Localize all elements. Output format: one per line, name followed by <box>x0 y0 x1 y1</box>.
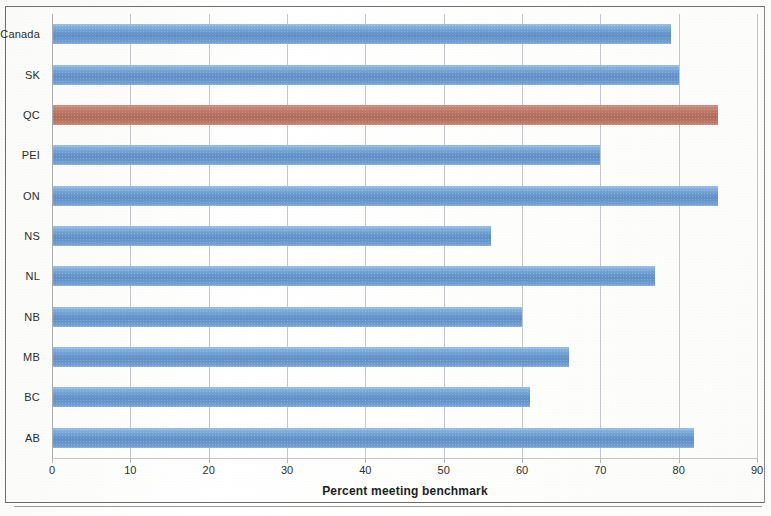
x-tick-label-20: 20 <box>203 464 215 476</box>
bar-row <box>52 54 757 94</box>
x-tick-label-90: 90 <box>751 464 763 476</box>
x-tick-60 <box>522 458 523 463</box>
bar-canada[interactable] <box>52 24 671 44</box>
category-axis-labels: CanadaSKQCPEIONNSNLNBMBBCAB <box>0 14 46 458</box>
x-tick-30 <box>287 458 288 463</box>
x-tick-50 <box>444 458 445 463</box>
bar-sk[interactable] <box>52 65 679 85</box>
x-tick-label-0: 0 <box>49 464 55 476</box>
category-label-ab: AB <box>0 431 46 445</box>
bar-row <box>52 337 757 377</box>
x-tick-label-60: 60 <box>516 464 528 476</box>
bar-row <box>52 175 757 215</box>
bar-row <box>52 14 757 54</box>
bar-mb[interactable] <box>52 347 569 367</box>
category-label-on: ON <box>0 189 46 203</box>
x-tick-0 <box>52 458 53 463</box>
category-label-bc: BC <box>0 390 46 404</box>
bar-ab[interactable] <box>52 428 694 448</box>
bar-row <box>52 256 757 296</box>
bar-row <box>52 418 757 458</box>
bar-pei[interactable] <box>52 145 600 165</box>
bar-ns[interactable] <box>52 226 491 246</box>
x-tick-80 <box>679 458 680 463</box>
bar-qc[interactable] <box>52 105 718 125</box>
category-label-pei: PEI <box>0 148 46 162</box>
x-tick-label-40: 40 <box>359 464 371 476</box>
bar-on[interactable] <box>52 186 718 206</box>
x-tick-10 <box>130 458 131 463</box>
x-tick-label-30: 30 <box>281 464 293 476</box>
category-label-nb: NB <box>0 310 46 324</box>
category-label-qc: QC <box>0 108 46 122</box>
x-tick-40 <box>365 458 366 463</box>
bar-row <box>52 297 757 337</box>
bar-bc[interactable] <box>52 387 530 407</box>
x-tick-90 <box>757 458 758 463</box>
category-label-nl: NL <box>0 269 46 283</box>
value-axis-line <box>52 458 758 459</box>
category-label-sk: SK <box>0 68 46 82</box>
x-axis-title: Percent meeting benchmark <box>52 484 758 498</box>
value-axis-tick-labels: 0102030405060708090 <box>0 464 771 480</box>
bar-row <box>52 216 757 256</box>
plot-area <box>52 14 757 458</box>
x-tick-label-80: 80 <box>673 464 685 476</box>
bar-row <box>52 135 757 175</box>
category-label-ns: NS <box>0 229 46 243</box>
bar-nb[interactable] <box>52 307 522 327</box>
x-tick-20 <box>209 458 210 463</box>
x-tick-label-70: 70 <box>594 464 606 476</box>
category-label-mb: MB <box>0 350 46 364</box>
gridline-90 <box>757 14 758 458</box>
x-tick-label-50: 50 <box>438 464 450 476</box>
category-axis-line <box>52 14 53 459</box>
scanned-chart-page: CanadaSKQCPEIONNSNLNBMBBCAB 010203040506… <box>0 0 771 516</box>
bar-row <box>52 95 757 135</box>
bar-row <box>52 377 757 417</box>
category-label-canada: Canada <box>0 27 46 41</box>
x-tick-70 <box>600 458 601 463</box>
page-rule <box>14 506 762 507</box>
x-tick-label-10: 10 <box>124 464 136 476</box>
bar-nl[interactable] <box>52 266 655 286</box>
